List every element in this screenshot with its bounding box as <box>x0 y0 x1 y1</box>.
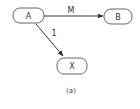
edge-a-b-label: M <box>68 6 75 15</box>
node-x: X <box>57 58 87 74</box>
node-b-label: B <box>115 13 121 22</box>
node-x-label: X <box>69 62 75 71</box>
edge-a-x-label: 1 <box>51 29 56 38</box>
diagram-canvas: M 1 A B X (a) <box>0 0 140 109</box>
edge-a-x <box>36 24 63 56</box>
node-b: B <box>104 9 132 24</box>
node-a: A <box>13 8 44 23</box>
node-a-label: A <box>26 12 32 21</box>
figure-caption: (a) <box>66 87 76 95</box>
